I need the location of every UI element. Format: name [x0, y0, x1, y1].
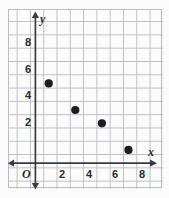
y-axis-arrow-up: [32, 12, 39, 19]
scatter-plot-figure: 8 6 4 2 2 4 6 8 O y x: [0, 0, 169, 198]
data-point: [71, 106, 79, 114]
x-axis-arrow-left: [8, 160, 14, 167]
origin-label: O: [22, 168, 31, 180]
data-point: [98, 119, 106, 127]
x-axis-label: x: [148, 146, 154, 158]
y-tick-label-4: 4: [19, 90, 31, 101]
y-axis-arrow-down: [32, 183, 39, 190]
y-tick-label-2: 2: [19, 117, 31, 128]
y-tick-label-6: 6: [19, 64, 31, 75]
x-axis-arrow-right: [150, 160, 157, 167]
data-point: [124, 146, 132, 154]
y-tick-label-8: 8: [19, 37, 31, 48]
x-tick-label-2: 2: [56, 169, 68, 180]
x-tick-label-8: 8: [136, 169, 148, 180]
x-tick-label-6: 6: [109, 169, 121, 180]
data-point: [45, 79, 53, 87]
y-axis-label: y: [40, 13, 45, 25]
x-tick-label-4: 4: [83, 169, 95, 180]
